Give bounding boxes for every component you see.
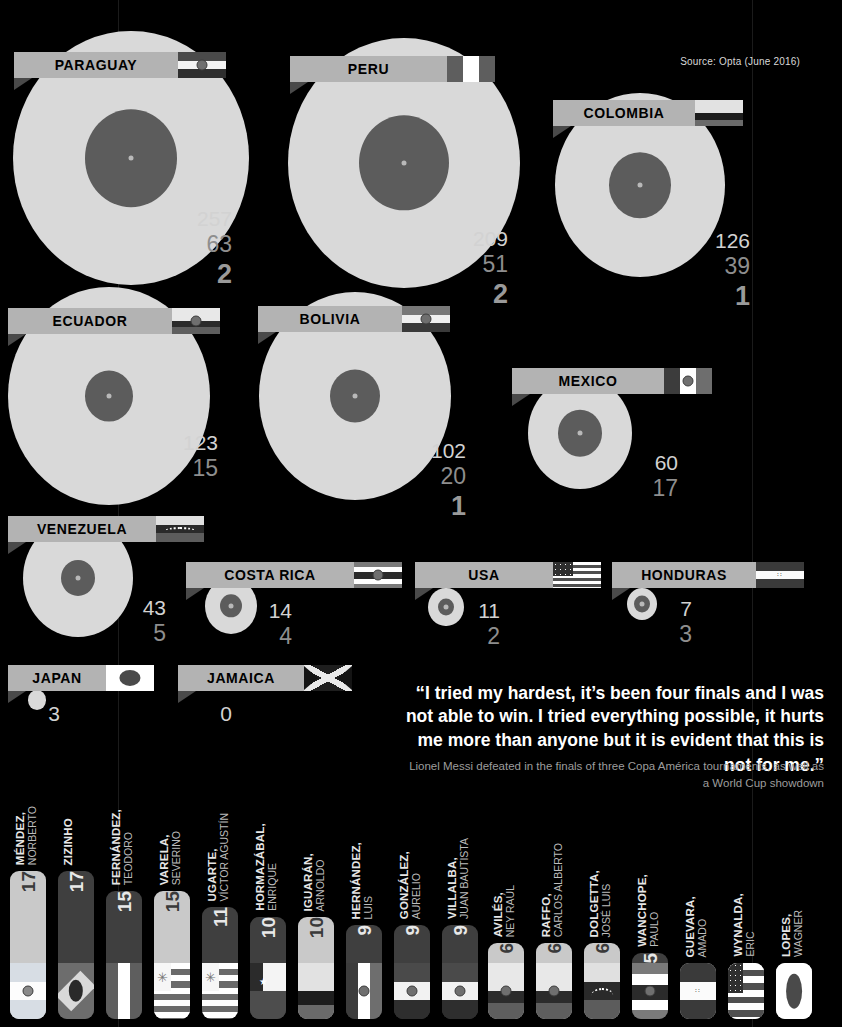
flag-peru-icon <box>106 963 142 1019</box>
player-goals: 6 <box>545 943 564 961</box>
player-first-name: ENRIQUE <box>267 823 279 911</box>
player-group: 17ZIZINHO <box>58 789 102 1019</box>
flag-argentina-icon <box>10 963 46 1019</box>
label-bar-notch <box>8 691 26 703</box>
label-bar-notch <box>178 691 196 703</box>
flag-mexico-icon <box>664 368 712 394</box>
country-label-bar[interactable]: PARAGUAY <box>14 52 226 78</box>
flag-jamaica-icon <box>304 665 352 691</box>
stat-wins: 2 <box>430 625 500 648</box>
country-center-dot <box>107 393 112 398</box>
player-bar[interactable]: 17 <box>10 871 46 1019</box>
player-bar[interactable]: 6 <box>536 943 572 1019</box>
stat-wins: 3 <box>622 623 692 646</box>
player-goals: 10 <box>259 917 278 945</box>
label-bar-notch <box>512 394 530 406</box>
player-first-name: TEODORO <box>123 809 135 885</box>
flag-usa-icon <box>553 562 601 588</box>
player-bar[interactable]: 10 <box>298 917 334 1019</box>
country-label-bar[interactable]: PERU <box>290 56 495 82</box>
country-label-bar[interactable]: BOLIVIA <box>258 306 450 332</box>
country-name: PARAGUAY <box>14 52 178 78</box>
player-goals: 9 <box>451 925 470 943</box>
country-label-bar[interactable]: HONDURAS∶∶ <box>612 562 804 588</box>
flag-honduras-icon: ∶∶ <box>680 963 716 1019</box>
player-goals: 15 <box>115 891 134 919</box>
player-first-name: NORBERTO <box>27 806 39 865</box>
player-bar[interactable]: 10★ <box>250 917 286 1019</box>
country-label-bar[interactable]: MEXICO <box>512 368 712 394</box>
player-bar[interactable]: 15✳ <box>154 891 190 1019</box>
stat-titles: 2 <box>438 281 508 308</box>
player-goals: 15 <box>163 891 182 919</box>
country-center-dot <box>353 393 358 398</box>
country-label-bar[interactable]: COSTA RICA <box>186 562 402 588</box>
country-name: COLOMBIA <box>553 100 695 126</box>
country-label-bar[interactable]: VENEZUELA <box>8 516 204 542</box>
stat-wins: 17 <box>608 477 678 500</box>
country-label-bar[interactable]: ECUADOR <box>8 308 220 334</box>
country-center-dot <box>402 160 407 165</box>
player-bar[interactable]: 15 <box>106 891 142 1019</box>
country-label-bar[interactable]: COLOMBIA <box>553 100 743 126</box>
flag-colombia-icon <box>298 963 334 1019</box>
country-name: JAMAICA <box>178 665 304 691</box>
player-bar[interactable]: 3 <box>728 963 764 1019</box>
player-group: 10IGUARÁN,ARNOLDO <box>298 789 342 1019</box>
source-note: Source: Opta (June 2016) <box>680 56 800 67</box>
player-goals: 11 <box>211 907 230 934</box>
flag-uruguay-icon: ✳ <box>154 963 190 1019</box>
player-bar[interactable]: 9 <box>442 925 478 1019</box>
player-first-name: JOSÉ LUIS <box>601 870 613 937</box>
country-center-dot <box>640 601 645 606</box>
country-label-bar[interactable]: USA <box>415 562 601 588</box>
country-center-dot <box>578 430 583 435</box>
player-name: VILLALBA,JUAN BAUTISTA <box>446 838 471 919</box>
player-first-name: WAGNER <box>793 910 805 957</box>
flag-japan-icon <box>106 665 154 691</box>
player-name: WYNALDA,ERIC <box>732 893 757 957</box>
player-bar[interactable]: 9 <box>394 925 430 1019</box>
country-label-bar[interactable]: JAMAICA <box>178 665 352 691</box>
flag-ecuador-icon <box>488 963 524 1019</box>
player-group: 3WYNALDA,ERIC <box>728 789 772 1019</box>
player-bar[interactable]: 17 <box>58 871 94 1019</box>
flag-venezuela-icon <box>156 516 204 542</box>
country-circle <box>627 588 657 620</box>
player-bar[interactable]: 11✳ <box>202 907 238 1019</box>
country-circle <box>428 588 464 627</box>
player-goals: 17 <box>19 871 38 899</box>
country-name: BOLIVIA <box>258 306 402 332</box>
flag-ecuador-icon <box>172 308 220 334</box>
country-circle <box>28 690 46 709</box>
player-bar[interactable]: 5 <box>632 953 668 1019</box>
player-name: GONZÁLEZ,AURELIO <box>398 851 423 919</box>
label-bar-notch <box>14 78 32 90</box>
label-bar-notch <box>8 542 26 554</box>
flag-peru-icon <box>447 56 495 82</box>
country-name: ECUADOR <box>8 308 172 334</box>
player-bar[interactable]: 6 <box>488 943 524 1019</box>
flag-japan-icon <box>776 963 812 1019</box>
player-bar[interactable]: 3∶∶ <box>680 963 716 1019</box>
player-group: 17MÉNDEZ,NORBERTO <box>10 789 54 1019</box>
player-goals: 9 <box>403 925 422 943</box>
stat-titles: 1 <box>396 493 466 520</box>
player-group: 6RAFFO,CARLOS ALBERTO <box>536 789 580 1019</box>
player-bar[interactable]: 9 <box>346 925 382 1019</box>
flag-venezuela-icon <box>584 963 620 1019</box>
stat-titles: 1 <box>680 283 750 310</box>
country-label-bar[interactable]: JAPAN <box>8 665 154 691</box>
top-scorers-layer: 17MÉNDEZ,NORBERTO17ZIZINHO15FERNÁNDEZ,TE… <box>0 777 842 1027</box>
player-bar[interactable]: 6 <box>584 943 620 1019</box>
player-name: GUEVARA,AMADO <box>684 896 709 957</box>
player-name: UGARTE,VÍCTOR AGUSTÍN <box>206 813 231 902</box>
flag-usa-icon <box>728 963 764 1019</box>
player-first-name: AURELIO <box>411 851 423 919</box>
flag-honduras-icon: ∶∶ <box>756 562 804 588</box>
player-bar[interactable]: 2 <box>776 963 812 1019</box>
country-name: USA <box>415 562 553 588</box>
player-name: ZIZINHO <box>62 818 75 865</box>
stat-matches: 0 <box>162 703 232 724</box>
player-name: FERNÁNDEZ,TEODORO <box>110 809 135 885</box>
